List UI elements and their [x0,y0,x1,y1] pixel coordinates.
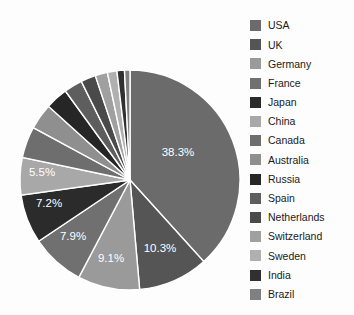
legend-color-swatch [250,231,261,242]
pie-slice-label: 5.5% [29,166,55,178]
legend-item[interactable]: Spain [250,189,354,208]
pie-svg: 38.3%10.3%9.1%7.9%7.2%5.5% [0,0,245,315]
legend-item[interactable]: France [250,74,354,93]
legend-item-label: USA [268,20,290,31]
legend-item-label: Canada [268,135,305,146]
legend-item[interactable]: USA [250,16,354,35]
legend-item-label: India [268,270,291,281]
legend-item-label: Australia [268,155,309,166]
legend-item-label: Switzerland [268,231,322,242]
legend-item[interactable]: China [250,112,354,131]
legend-item[interactable]: Australia [250,150,354,169]
legend-color-swatch [250,154,261,165]
legend-item[interactable]: Canada [250,131,354,150]
legend-item-label: China [268,116,295,127]
legend-item-label: Japan [268,97,297,108]
legend-color-swatch [250,250,261,261]
legend-color-swatch [250,97,261,108]
pie-chart-figure: 38.3%10.3%9.1%7.9%7.2%5.5% USAUKGermanyF… [0,0,354,315]
legend-item-label: Russia [268,174,300,185]
legend-item[interactable]: Germany [250,54,354,73]
legend-color-swatch [250,270,261,281]
pie-slice-label: 7.2% [36,197,62,209]
legend-item-label: UK [268,40,283,51]
legend-item[interactable]: Switzerland [250,227,354,246]
legend-color-swatch [250,39,261,50]
legend-color-swatch [250,174,261,185]
pie-slice-label: 38.3% [162,146,195,158]
legend-color-swatch [250,289,261,300]
legend-item-label: Spain [268,193,295,204]
legend-item-label: Netherlands [268,212,325,223]
legend-item[interactable]: India [250,265,354,284]
legend-item-label: Germany [268,59,311,70]
legend-color-swatch [250,135,261,146]
pie-slice-label: 10.3% [144,242,177,254]
legend-item[interactable]: Russia [250,170,354,189]
legend-item-label: Sweden [268,251,306,262]
legend-item-label: France [268,78,301,89]
legend-item[interactable]: UK [250,35,354,54]
legend-color-swatch [250,78,261,89]
legend-item[interactable]: Japan [250,93,354,112]
pie-slice-label: 7.9% [60,230,86,242]
legend-color-swatch [250,193,261,204]
legend-item[interactable]: Brazil [250,285,354,304]
pie-slice-label: 9.1% [98,252,124,264]
legend-item-label: Brazil [268,289,294,300]
legend-color-swatch [250,20,261,31]
pie-plot-area: 38.3%10.3%9.1%7.9%7.2%5.5% [0,0,245,315]
legend: USAUKGermanyFranceJapanChinaCanadaAustra… [250,16,354,304]
pie-slice-group [20,70,240,290]
legend-color-swatch [250,212,261,223]
legend-item[interactable]: Netherlands [250,208,354,227]
legend-item[interactable]: Sweden [250,246,354,265]
legend-color-swatch [250,116,261,127]
legend-color-swatch [250,58,261,69]
